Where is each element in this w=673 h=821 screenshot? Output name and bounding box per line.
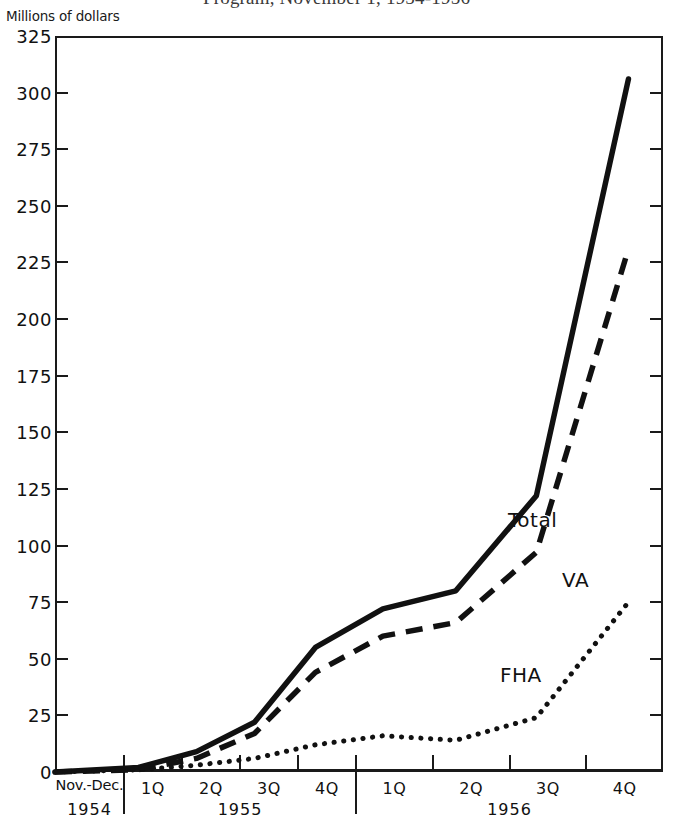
x-tick-1956	[509, 755, 511, 772]
series-label-fha: FHA	[500, 663, 542, 687]
y-tick-mark-right	[650, 601, 663, 603]
x-label-1956-q4: 4Q	[613, 779, 637, 798]
y-tick-label: 150	[0, 422, 52, 443]
y-tick-mark	[55, 92, 68, 94]
x-label-year-1956: 1956	[487, 800, 532, 819]
chart-figure: Program, November 1, 1954-1956 Millions …	[0, 0, 673, 821]
y-tick-label: 200	[0, 309, 52, 330]
x-label-1956-q3: 3Q	[536, 779, 560, 798]
x-axis-divider-1955-1956	[355, 755, 357, 814]
y-tick-mark-right	[650, 545, 663, 547]
y-tick-mark	[55, 658, 68, 660]
y-tick-mark-right	[650, 714, 663, 716]
plot-area	[55, 36, 663, 772]
y-tick-label: 250	[0, 195, 52, 216]
y-tick-label: 275	[0, 139, 52, 160]
x-label-year-1955: 1955	[218, 800, 263, 819]
x-tick-1955	[297, 755, 299, 772]
y-tick-mark-right	[650, 148, 663, 150]
y-tick-mark	[55, 261, 68, 263]
y-tick-label: 300	[0, 82, 52, 103]
y-tick-mark	[55, 545, 68, 547]
y-tick-mark	[55, 148, 68, 150]
y-axis-caption: Millions of dollars	[6, 8, 119, 24]
y-tick-label: 225	[0, 252, 52, 273]
y-tick-mark-right	[650, 205, 663, 207]
y-tick-mark	[55, 318, 68, 320]
x-label-1955-q1: 1Q	[141, 779, 165, 798]
y-tick-mark-right	[650, 261, 663, 263]
y-tick-mark	[55, 714, 68, 716]
y-tick-label: 50	[0, 648, 52, 669]
x-label-1955-q4: 4Q	[315, 779, 339, 798]
x-label-1956-q1: 1Q	[382, 779, 406, 798]
series-label-total: Total	[508, 508, 557, 532]
y-tick-label: 100	[0, 535, 52, 556]
x-label-1956-q2: 2Q	[459, 779, 483, 798]
y-tick-label: 125	[0, 478, 52, 499]
y-tick-label: 0	[0, 762, 52, 783]
y-tick-mark-right	[650, 658, 663, 660]
y-tick-mark-right	[650, 318, 663, 320]
y-tick-mark-right	[650, 431, 663, 433]
x-label-period-1954-year: 1954	[67, 800, 112, 819]
x-tick-1955	[181, 755, 183, 772]
y-tick-mark-right	[650, 488, 663, 490]
x-label-1955-q2: 2Q	[199, 779, 223, 798]
y-tick-label: 325	[0, 26, 52, 47]
y-tick-label: 175	[0, 365, 52, 386]
y-tick-mark-right	[650, 375, 663, 377]
y-tick-mark	[55, 488, 68, 490]
x-tick-1956	[585, 755, 587, 772]
y-tick-mark	[55, 601, 68, 603]
y-tick-label: 25	[0, 705, 52, 726]
x-tick-1955	[239, 755, 241, 772]
y-tick-mark	[55, 205, 68, 207]
y-tick-mark	[55, 375, 68, 377]
series-label-va: VA	[562, 568, 589, 592]
y-tick-label: 75	[0, 592, 52, 613]
y-tick-mark-right	[650, 92, 663, 94]
y-tick-mark	[55, 431, 68, 433]
x-tick-1956	[432, 755, 434, 772]
x-label-period-1954-months: Nov.-Dec.	[56, 777, 124, 793]
x-label-1955-q3: 3Q	[257, 779, 281, 798]
